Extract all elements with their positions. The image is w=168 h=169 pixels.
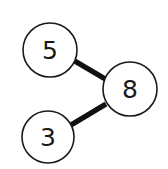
edge-5-8 bbox=[73, 60, 107, 80]
node-5-label: 5 bbox=[42, 36, 58, 65]
node-3-label: 3 bbox=[40, 123, 56, 152]
node-3: 3 bbox=[22, 111, 74, 163]
node-8-label: 8 bbox=[122, 75, 138, 104]
node-8: 8 bbox=[103, 62, 157, 116]
tree-diagram: 5 8 3 bbox=[0, 0, 168, 169]
edge-3-8 bbox=[71, 104, 106, 125]
node-5: 5 bbox=[23, 23, 77, 77]
